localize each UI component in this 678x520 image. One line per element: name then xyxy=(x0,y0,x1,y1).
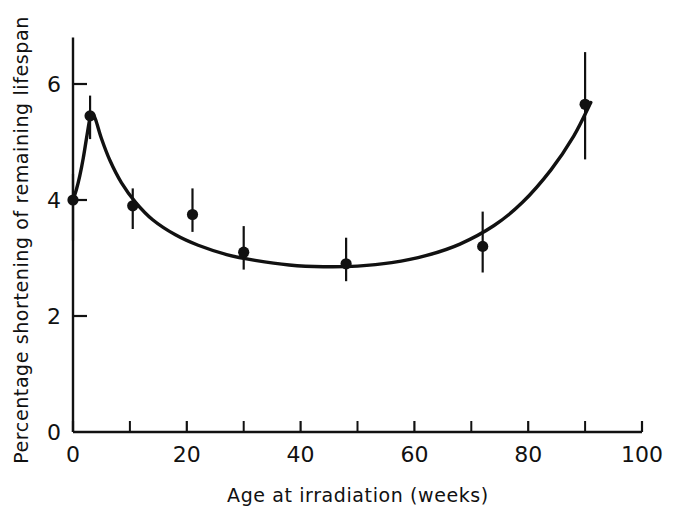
x-tick-label: 80 xyxy=(514,442,542,467)
y-tick-label: 0 xyxy=(47,420,61,445)
tick-labels-layer: 0204060801000246 xyxy=(47,72,663,467)
x-tick-label: 100 xyxy=(621,442,663,467)
y-tick-label: 6 xyxy=(47,72,61,97)
y-tick-label: 2 xyxy=(47,304,61,329)
errorbar-layer xyxy=(73,52,585,281)
data-point xyxy=(477,241,488,252)
y-axis-title: Percentage shortening of remaining lifes… xyxy=(10,16,32,464)
data-point xyxy=(67,194,78,205)
fitted-curve-layer xyxy=(73,103,591,267)
x-tick-label: 0 xyxy=(66,442,80,467)
x-tick-label: 40 xyxy=(287,442,315,467)
data-point xyxy=(238,247,249,258)
figure-container: 0204060801000246 Age at irradiation (wee… xyxy=(0,0,678,520)
chart-canvas: 0204060801000246 Age at irradiation (wee… xyxy=(0,0,678,520)
data-points-layer xyxy=(67,99,590,270)
data-point xyxy=(127,200,138,211)
x-tick-label: 60 xyxy=(400,442,428,467)
data-point xyxy=(84,110,95,121)
x-tick-label: 20 xyxy=(173,442,201,467)
data-point xyxy=(187,209,198,220)
data-point xyxy=(580,99,591,110)
y-tick-label: 4 xyxy=(47,188,61,213)
axes-layer xyxy=(73,38,642,432)
x-axis-title: Age at irradiation (weeks) xyxy=(227,484,489,506)
fitted-curve xyxy=(73,103,591,267)
data-point xyxy=(341,258,352,269)
